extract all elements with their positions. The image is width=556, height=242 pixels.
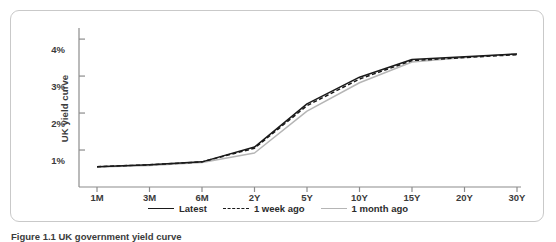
legend-swatch-icon xyxy=(321,204,347,213)
x-tick-label: 5Y xyxy=(287,193,327,203)
x-tick-label: 20Y xyxy=(445,193,485,203)
x-tick-label: 10Y xyxy=(340,193,380,203)
x-tick-label: 1M xyxy=(77,193,117,203)
legend-swatch-icon xyxy=(223,204,249,213)
chart-panel: UK yield curve 1%2%3%4% 1M3M6M2Y5Y10Y15Y… xyxy=(10,10,544,222)
yield-curve-plot xyxy=(69,22,525,198)
legend-label: 1 month ago xyxy=(352,203,408,214)
y-tick-label: 1% xyxy=(35,156,65,166)
x-tick-label: 2Y xyxy=(235,193,275,203)
y-axis-tick-labels: 1%2%3%4% xyxy=(31,22,65,198)
legend-label: 1 week ago xyxy=(254,203,305,214)
figure-caption: Figure 1.1 UK government yield curve xyxy=(11,231,551,242)
series-line xyxy=(97,54,517,167)
legend-item: Latest xyxy=(148,203,207,214)
y-tick-label: 2% xyxy=(35,119,65,129)
legend-item: 1 month ago xyxy=(321,203,408,214)
x-tick-label: 15Y xyxy=(392,193,432,203)
y-tick-label: 3% xyxy=(35,82,65,92)
legend-label: Latest xyxy=(179,203,207,214)
legend-item: 1 week ago xyxy=(223,203,305,214)
plot-area xyxy=(69,22,525,198)
x-tick-label: 6M xyxy=(182,193,222,203)
y-tick-label: 4% xyxy=(35,45,65,55)
legend-swatch-icon xyxy=(148,204,174,213)
chart-legend: Latest1 week ago1 month ago xyxy=(11,203,545,214)
series-line xyxy=(97,54,517,167)
x-tick-label: 3M xyxy=(130,193,170,203)
x-tick-label: 30Y xyxy=(497,193,537,203)
